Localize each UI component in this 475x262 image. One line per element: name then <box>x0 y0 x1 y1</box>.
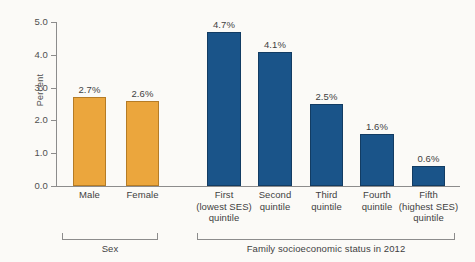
bar-rect <box>360 134 394 186</box>
category-label-line: Fifth <box>381 189 475 201</box>
bar-rect <box>73 97 106 186</box>
bar-value-label: 0.6% <box>398 153 459 164</box>
bar-value-label: 2.5% <box>296 91 357 102</box>
y-axis-tick-label: 3.0 <box>14 82 48 93</box>
group-label-sex: Sex <box>62 243 158 254</box>
y-axis-line <box>56 22 57 187</box>
group-bracket-ses <box>197 233 455 240</box>
bar-rect <box>310 104 343 186</box>
bar-value-label: 4.7% <box>193 19 255 30</box>
bar-rect <box>207 32 241 186</box>
y-axis-tick <box>51 153 57 154</box>
group-bracket-sex <box>62 233 158 240</box>
category-label: Fifth(highest SES)quintile <box>381 189 475 224</box>
bar-rect <box>258 52 292 186</box>
y-axis-tick <box>51 186 57 187</box>
bar-third: 2.5% <box>310 104 343 186</box>
bar-value-label: 1.6% <box>346 121 408 132</box>
bar-rect <box>412 166 445 186</box>
y-axis-tick-label: 4.0 <box>14 49 48 60</box>
y-axis-tick <box>51 88 57 89</box>
bar-first: 4.7% <box>207 32 241 186</box>
bar-female: 2.6% <box>126 101 159 186</box>
y-axis-tick-label: 1.0 <box>14 147 48 158</box>
y-axis-tick <box>51 55 57 56</box>
group-label-ses: Family socioeconomic status in 2012 <box>197 243 455 254</box>
category-label-line: quintile <box>176 212 272 224</box>
bar-value-label: 2.6% <box>112 88 173 99</box>
y-axis-tick <box>51 120 57 121</box>
bar-male: 2.7% <box>73 97 106 186</box>
y-axis-tick <box>51 22 57 23</box>
y-axis-tick-label: 2.0 <box>14 114 48 125</box>
y-axis-tick-label: 5.0 <box>14 16 48 27</box>
bar-value-label: 2.7% <box>59 84 120 95</box>
bar-chart: Percent 5.04.03.02.01.00.0 2.7%2.6%4.7%4… <box>0 0 475 262</box>
category-label-line: quintile <box>381 212 475 224</box>
bar-value-label: 4.1% <box>244 39 306 50</box>
bar-second: 4.1% <box>258 52 292 186</box>
bar-fifth: 0.6% <box>412 166 445 186</box>
bar-fourth: 1.6% <box>360 134 394 186</box>
category-label-line: (highest SES) <box>381 201 475 213</box>
bar-rect <box>126 101 159 186</box>
x-axis-line <box>56 186 460 187</box>
